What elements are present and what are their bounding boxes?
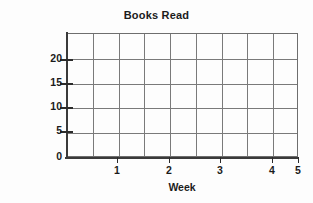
gridline-vertical: [196, 34, 197, 156]
x-axis-tick: [169, 157, 170, 163]
x-axis-tick-label: 1: [105, 165, 129, 176]
x-axis-tick: [220, 157, 221, 163]
gridline-vertical: [93, 34, 94, 156]
x-axis-tick-label: 3: [208, 165, 232, 176]
x-axis-tick-label: 2: [157, 165, 181, 176]
gridline-vertical: [119, 34, 120, 156]
gridline-horizontal: [67, 108, 297, 109]
x-axis-tick: [272, 157, 273, 163]
chart-title: Books Read: [0, 9, 313, 21]
gridline-vertical: [247, 34, 248, 156]
x-axis-tick: [298, 157, 299, 163]
gridline-vertical: [273, 34, 274, 156]
gridline-horizontal: [67, 59, 297, 60]
x-axis-line: [65, 157, 299, 159]
gridline-vertical: [170, 34, 171, 156]
gridline-horizontal: [67, 133, 297, 134]
chart-container: Books Read 20 15 10 5 0 1 2 3 4 5 Number…: [0, 0, 313, 203]
plot-area: [66, 33, 298, 157]
gridline-vertical: [144, 34, 145, 156]
x-axis-tick-label: 4: [260, 165, 284, 176]
y-axis-line: [66, 32, 68, 158]
gridline-vertical: [222, 34, 223, 156]
y-axis-tick-label: 10: [22, 101, 62, 112]
y-axis-tick-label: 5: [22, 125, 62, 136]
x-axis-tick-label: 5: [286, 165, 310, 176]
x-axis-tick: [117, 157, 118, 163]
gridline-horizontal: [67, 84, 297, 85]
y-axis-tick-label: 0: [22, 151, 62, 162]
x-axis-title: Week: [66, 181, 298, 193]
y-axis-tick-label: 20: [22, 53, 62, 64]
y-axis-tick-label: 15: [22, 77, 62, 88]
